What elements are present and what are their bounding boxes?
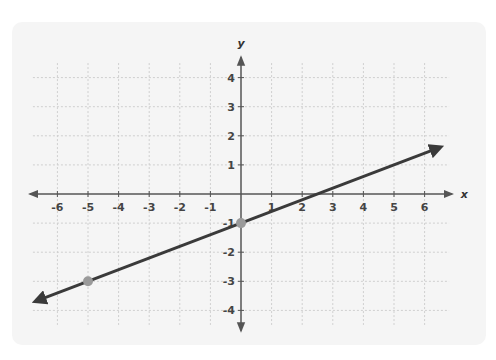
coordinate-plane: -6-5-4-3-2-11234564321-1-2-3-4xy xyxy=(0,0,496,360)
x-tick-label: -4 xyxy=(112,201,125,214)
x-tick-label: 2 xyxy=(298,201,306,214)
y-tick-label: 3 xyxy=(227,101,235,114)
y-tick-label: -2 xyxy=(223,246,235,259)
x-tick-label: -2 xyxy=(174,201,186,214)
y-tick-label: 4 xyxy=(227,72,235,85)
x-tick-label: 4 xyxy=(360,201,368,214)
x-tick-label: 3 xyxy=(329,201,337,214)
y-tick-label: 2 xyxy=(227,130,235,143)
x-tick-label: -1 xyxy=(204,201,216,214)
x-tick-label: 5 xyxy=(390,201,398,214)
x-tick-label: -5 xyxy=(82,201,94,214)
x-axis-label: x xyxy=(460,188,469,201)
x-tick-label: 6 xyxy=(421,201,429,214)
plotted-point xyxy=(83,276,93,286)
y-tick-label: -3 xyxy=(223,275,235,288)
x-tick-label: -3 xyxy=(143,201,155,214)
y-tick-label: 1 xyxy=(227,159,235,172)
x-tick-label: -6 xyxy=(51,201,64,214)
y-tick-label: -4 xyxy=(223,304,236,317)
y-axis-label: y xyxy=(237,37,245,50)
plotted-point xyxy=(236,218,246,228)
